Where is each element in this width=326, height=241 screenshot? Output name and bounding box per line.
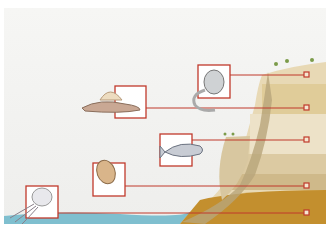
dimetrodon-box	[115, 86, 146, 118]
strata-diagram	[0, 0, 326, 241]
marker	[304, 183, 309, 188]
marker	[304, 210, 309, 215]
marker	[304, 137, 309, 142]
marker	[304, 72, 309, 77]
marker	[304, 105, 309, 110]
fossil-strata-illustration	[0, 0, 326, 241]
